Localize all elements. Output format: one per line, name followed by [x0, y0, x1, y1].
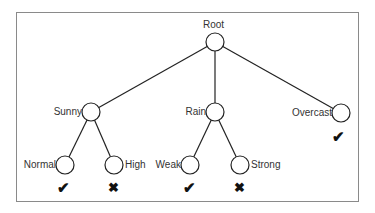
edge-root-sunny [99, 46, 207, 107]
cross-icon: ✖ [108, 180, 119, 195]
edge-rain-strong [219, 120, 236, 157]
node-rain [206, 103, 224, 121]
edge-root-overcast [223, 46, 333, 108]
node-weak [181, 156, 199, 174]
edge-sunny-high [95, 120, 111, 156]
node-root [206, 33, 224, 51]
node-normal [56, 156, 74, 174]
node-label-high: High [125, 160, 146, 170]
edge-sunny-normal [69, 120, 87, 157]
decision-tree-diagram: Root Sunny Rain Overcast Normal High Wea… [0, 0, 375, 213]
node-label-root: Root [203, 20, 224, 30]
node-label-overcast: Overcast [292, 108, 332, 118]
node-label-sunny: Sunny [54, 107, 82, 117]
node-label-weak: Weak [156, 160, 181, 170]
node-strong [231, 156, 249, 174]
node-label-rain: Rain [185, 107, 206, 117]
check-icon: ✔ [183, 180, 196, 195]
node-label-normal: Normal [24, 160, 56, 170]
node-high [105, 156, 123, 174]
check-icon: ✔ [332, 129, 345, 144]
check-icon: ✔ [57, 180, 70, 195]
node-overcast [332, 104, 350, 122]
cross-icon: ✖ [234, 180, 245, 195]
node-sunny [82, 103, 100, 121]
edge-rain-weak [194, 120, 211, 157]
node-label-strong: Strong [251, 160, 280, 170]
